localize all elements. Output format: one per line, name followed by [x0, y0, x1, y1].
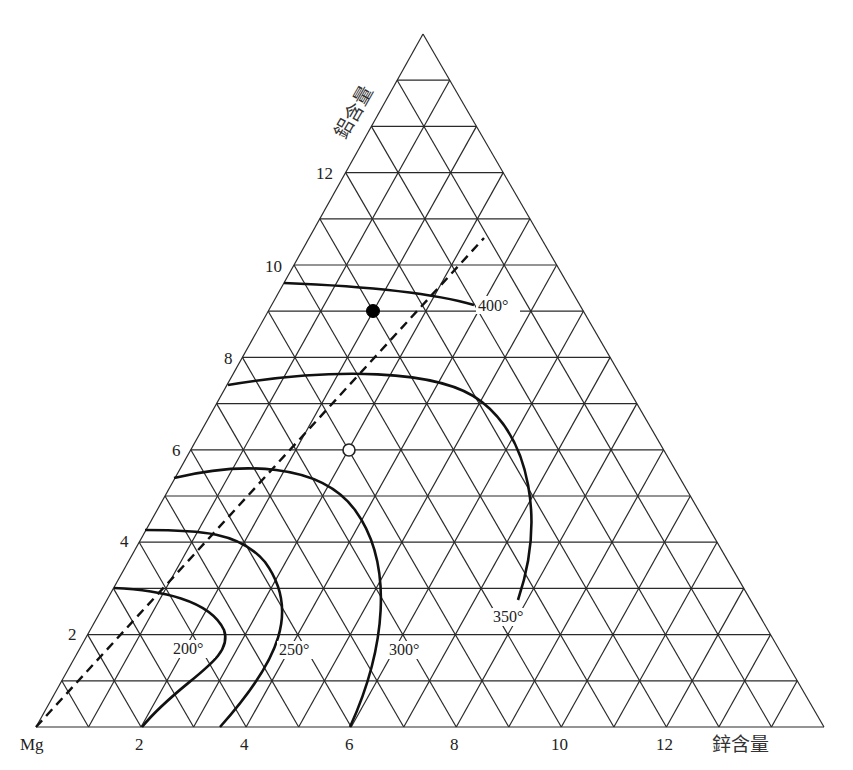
- grid-line-left-parallel: [456, 404, 637, 727]
- left-tick-6: 6: [172, 441, 181, 460]
- triangle-edge-left: [36, 34, 423, 727]
- grid-line-left-parallel: [771, 681, 797, 727]
- grid-line-left-parallel: [141, 126, 476, 727]
- left-axis-title: 鋁含量: [329, 82, 377, 142]
- grid-line-right-parallel: [320, 219, 614, 727]
- bottom-tick-6: 6: [345, 735, 354, 754]
- grid-line-right-parallel: [217, 404, 404, 727]
- triangle-edge-right: [423, 34, 824, 727]
- isotherm-label-200: 200°: [173, 640, 203, 657]
- ternary-diagram: 400° 350° 300° 250° 200° Mg 鋅含量 鋁含量 2 4 …: [0, 0, 853, 770]
- isotherm-label-350: 350°: [493, 608, 523, 625]
- grid-line-right-parallel: [62, 681, 89, 727]
- corner-label-mg: Mg: [20, 735, 44, 754]
- left-tick-10: 10: [265, 257, 282, 276]
- bottom-tick-12: 12: [656, 735, 673, 754]
- left-tick-4: 4: [120, 532, 129, 551]
- bottom-tick-10: 10: [551, 735, 568, 754]
- bottom-axis-title: 鋅含量: [712, 733, 769, 755]
- grid-line-left-parallel: [666, 588, 743, 727]
- open-point: [343, 444, 355, 456]
- left-tick-12: 12: [316, 164, 333, 183]
- bottom-tick-4: 4: [240, 735, 249, 754]
- bottom-tick-2: 2: [135, 735, 144, 754]
- grid-line-right-parallel: [371, 126, 719, 727]
- bottom-tick-8: 8: [450, 735, 459, 754]
- solid-point: [367, 305, 380, 318]
- grid-line-left-parallel: [561, 496, 690, 727]
- isotherm-label-300: 300°: [389, 641, 419, 658]
- isotherm-250-curve: [145, 530, 282, 727]
- left-tick-8: 8: [224, 349, 233, 368]
- isotherm-300-curve: [174, 468, 381, 727]
- left-tick-2: 2: [68, 625, 77, 644]
- isotherm-label-400: 400°: [478, 297, 508, 314]
- isotherm-label-250: 250°: [279, 641, 309, 658]
- grid-line-right-parallel: [268, 311, 509, 727]
